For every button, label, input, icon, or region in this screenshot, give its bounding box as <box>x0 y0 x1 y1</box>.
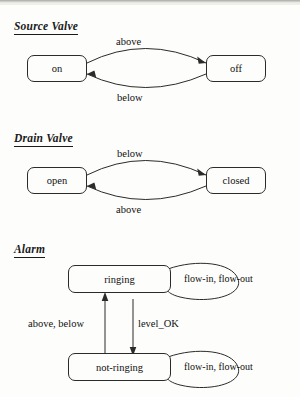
self-loop-label-not-ringing: flow-in, flow-out <box>184 361 253 373</box>
edge-label-drain-below: below <box>117 148 143 160</box>
state-box-not-ringing[interactable]: not-ringing <box>68 353 171 381</box>
edge-label-alarm-above-below: above, below <box>28 318 84 330</box>
edge-drain-open-to-closed <box>87 161 206 176</box>
state-box-ringing[interactable]: ringing <box>68 265 171 293</box>
edge-source-off-to-on <box>87 74 206 88</box>
arrowhead-drain-open-to-closed <box>197 169 206 176</box>
edge-label-drain-above: above <box>116 204 141 216</box>
arrowhead-source-on-to-off <box>197 57 206 64</box>
edge-label-source-above: above <box>116 36 141 48</box>
self-loop-label-ringing: flow-in, flow-out <box>184 273 253 285</box>
edge-label-source-below: below <box>117 92 143 104</box>
state-box-on[interactable]: on <box>27 55 87 82</box>
edge-source-on-to-off <box>87 49 206 64</box>
edge-drain-closed-to-open <box>87 186 206 200</box>
diagram-page: Source Valve on off above below Drain Va… <box>0 0 300 397</box>
state-box-closed[interactable]: closed <box>206 167 266 194</box>
arrowhead-alarm-up <box>102 292 109 301</box>
state-box-off[interactable]: off <box>206 55 266 82</box>
edge-label-alarm-level-ok: level_OK <box>138 318 179 330</box>
state-box-open[interactable]: open <box>27 167 87 194</box>
